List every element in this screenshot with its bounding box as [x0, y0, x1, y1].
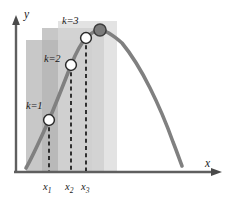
x-tick-sub-3: 3: [86, 186, 90, 195]
iterate-label-k1: k=1: [26, 101, 42, 112]
x-axis-label: x: [205, 158, 210, 170]
x-tick-sub-2: 2: [70, 186, 74, 195]
optimum-marker: [94, 24, 106, 36]
x-tick-label-3: x3: [81, 182, 89, 195]
x-tick-label-1: x1: [43, 182, 51, 195]
x-tick-label-2: x2: [65, 182, 73, 195]
iterate-marker-k2: [66, 60, 77, 71]
y-axis-label: y: [24, 9, 29, 21]
figure-canvas: y x k=1 k=2 k=3 x1 x2 x3: [0, 0, 238, 209]
iterate-marker-k1: [44, 115, 55, 126]
y-axis: [12, 15, 20, 172]
iterate-label-k3: k=3: [62, 16, 78, 27]
iterate-label-k2: k=2: [44, 54, 60, 65]
iterate-marker-k3: [81, 33, 92, 44]
x-tick-sub-1: 1: [48, 186, 52, 195]
